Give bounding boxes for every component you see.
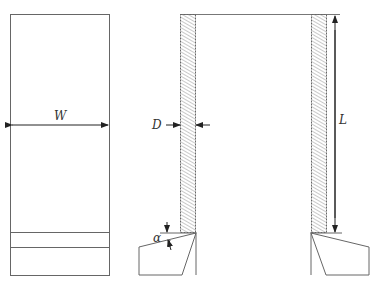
drawing: W D L bbox=[0, 0, 376, 282]
left-view bbox=[10, 15, 110, 276]
left-wall-hatched bbox=[181, 15, 196, 233]
right-wall-hatched bbox=[312, 15, 327, 233]
thickness-label: D bbox=[151, 118, 162, 132]
right-view bbox=[139, 15, 369, 276]
length-label: L bbox=[338, 113, 347, 127]
angle-label: α bbox=[153, 231, 161, 245]
diagram-canvas: W D L bbox=[0, 0, 376, 282]
width-label: W bbox=[54, 109, 68, 123]
left-tool-piece bbox=[139, 233, 196, 275]
left-outline bbox=[11, 15, 110, 276]
right-tool-piece bbox=[311, 233, 369, 275]
